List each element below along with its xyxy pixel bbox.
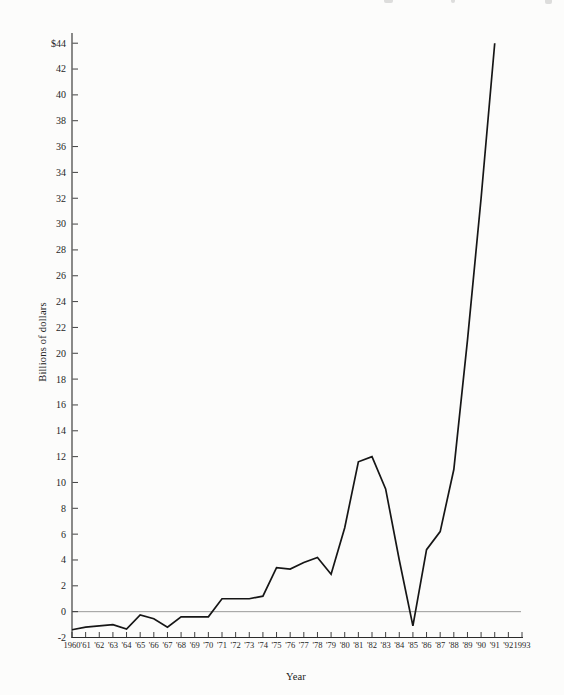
y-tick-label: 6 bbox=[61, 529, 66, 540]
x-tick-label: '62 bbox=[94, 640, 104, 650]
x-tick-label: '75 bbox=[272, 640, 282, 650]
x-tick-label: '67 bbox=[162, 640, 172, 650]
y-tick-label: 40 bbox=[56, 89, 66, 100]
scanned-chart-page: $444240383634323028262422201816141210864… bbox=[0, 0, 564, 695]
y-tick-label: 34 bbox=[56, 167, 66, 178]
y-tick-label: 30 bbox=[56, 218, 66, 229]
y-axis-title: Billions of dollars bbox=[37, 302, 48, 382]
y-tick-label: 4 bbox=[61, 554, 66, 565]
x-tick-label: '88 bbox=[449, 640, 459, 650]
x-tick-label: '80 bbox=[340, 640, 350, 650]
x-tick-label: '65 bbox=[135, 640, 145, 650]
y-tick-label: 28 bbox=[56, 244, 66, 255]
x-tick-label: '78 bbox=[312, 640, 322, 650]
x-tick-label: '83 bbox=[381, 640, 391, 650]
y-tick-label: 24 bbox=[56, 296, 66, 307]
x-tick-label: '84 bbox=[394, 640, 405, 650]
x-tick-label: '82 bbox=[367, 640, 377, 650]
x-tick-label: '74 bbox=[258, 640, 269, 650]
x-tick-label: '87 bbox=[435, 640, 445, 650]
x-tick-label: '66 bbox=[149, 640, 159, 650]
y-tick-label: 12 bbox=[56, 451, 66, 462]
y-tick-label: 32 bbox=[56, 193, 66, 204]
y-tick-label: 38 bbox=[56, 115, 66, 126]
y-tick-label: $44 bbox=[51, 38, 66, 49]
y-tick-label: 16 bbox=[56, 399, 66, 410]
x-tick-label: '63 bbox=[108, 640, 118, 650]
series-line bbox=[72, 43, 495, 630]
x-tick-label: '68 bbox=[176, 640, 186, 650]
x-axis-title: Year bbox=[286, 671, 306, 682]
x-tick-label: '85 bbox=[408, 640, 418, 650]
x-tick-label: '71 bbox=[217, 640, 227, 650]
y-tick-label: 36 bbox=[56, 141, 66, 152]
x-tick-label: '86 bbox=[422, 640, 432, 650]
billions-of-dollars-line-chart: $444240383634323028262422201816141210864… bbox=[0, 0, 564, 695]
y-tick-label: 18 bbox=[56, 374, 66, 385]
chart-canvas: $444240383634323028262422201816141210864… bbox=[0, 0, 564, 695]
x-tick-label: '64 bbox=[122, 640, 133, 650]
x-tick-label: '92 bbox=[503, 640, 513, 650]
y-tick-label: 26 bbox=[56, 270, 66, 281]
y-tick-label: 0 bbox=[61, 606, 66, 617]
x-tick-label: 1993 bbox=[514, 640, 531, 650]
y-tick-label: 14 bbox=[56, 425, 66, 436]
y-tick-label: 22 bbox=[56, 322, 66, 333]
y-tick-label: 20 bbox=[56, 348, 66, 359]
x-tick-label: '90 bbox=[476, 640, 486, 650]
x-tick-label: '91 bbox=[490, 640, 500, 650]
x-tick-label: '76 bbox=[285, 640, 295, 650]
y-tick-label: 2 bbox=[61, 580, 66, 591]
x-tick-label: 1960 bbox=[64, 640, 81, 650]
x-tick-label: '89 bbox=[462, 640, 472, 650]
x-tick-label: '73 bbox=[244, 640, 254, 650]
y-tick-label: 42 bbox=[56, 63, 66, 74]
x-tick-label: '81 bbox=[353, 640, 363, 650]
x-tick-label: '69 bbox=[190, 640, 200, 650]
x-tick-label: '72 bbox=[231, 640, 241, 650]
y-tick-label: 10 bbox=[56, 477, 66, 488]
x-tick-label: '61 bbox=[81, 640, 91, 650]
x-tick-label: '70 bbox=[203, 640, 213, 650]
x-tick-label: '77 bbox=[299, 640, 309, 650]
y-tick-label: 8 bbox=[61, 503, 66, 514]
x-tick-label: '79 bbox=[326, 640, 336, 650]
